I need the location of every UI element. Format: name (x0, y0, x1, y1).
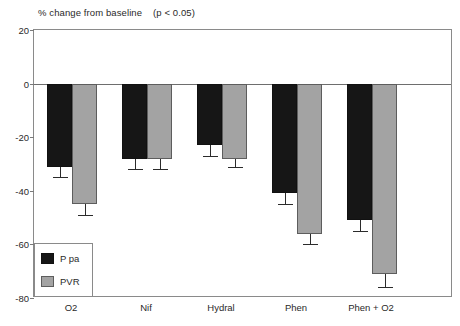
error-bar-cap (128, 169, 143, 170)
y-tick-label: -40 (15, 185, 29, 196)
error-bar-cap (378, 287, 393, 288)
error-bar-cap (153, 169, 168, 170)
chart-container: % change from baseline (p < 0.05) 200-20… (0, 0, 460, 326)
error-bar-cap (303, 244, 318, 245)
error-bar-stem (385, 274, 386, 287)
bar (297, 84, 322, 234)
y-tick-label: 20 (18, 25, 29, 36)
bar (347, 84, 372, 221)
bar (222, 84, 247, 159)
error-bar-stem (235, 159, 236, 167)
error-bar-stem (85, 204, 86, 215)
y-tick-label: -80 (15, 293, 29, 304)
x-axis-label-nif: Nif (140, 302, 152, 313)
error-bar-stem (360, 220, 361, 231)
error-bar-stem (310, 234, 311, 245)
legend-item-label: PVR (60, 276, 80, 287)
x-axis-label-phen-o2: Phen + O2 (348, 302, 394, 313)
bar (122, 84, 147, 159)
x-axis-label-phen: Phen (285, 302, 307, 313)
bar (47, 84, 72, 167)
chart-title: % change from baseline (p < 0.05) (38, 7, 195, 18)
error-bar-stem (210, 145, 211, 156)
error-bar-cap (228, 167, 243, 168)
error-bar-cap (203, 156, 218, 157)
bar (372, 84, 397, 274)
legend-item-label: P pa (60, 253, 79, 264)
y-tick-mark (30, 30, 34, 31)
error-bar-stem (135, 159, 136, 170)
y-tick-mark (30, 298, 34, 299)
error-bar-cap (278, 204, 293, 205)
gray-swatch-icon (41, 276, 54, 287)
chart-legend: P paPVR (34, 243, 93, 297)
bar (272, 84, 297, 194)
error-bar-stem (160, 159, 161, 170)
error-bar-cap (353, 231, 368, 232)
bar (72, 84, 97, 205)
bar (147, 84, 172, 159)
x-axis-label-hydral: Hydral (207, 302, 234, 313)
error-bar-stem (285, 193, 286, 204)
x-axis-label-o2: O2 (65, 302, 78, 313)
y-tick-label: -20 (15, 132, 29, 143)
error-bar-stem (60, 167, 61, 178)
y-tick-mark (30, 191, 34, 192)
error-bar-cap (53, 177, 68, 178)
black-swatch-icon (41, 253, 54, 264)
bar (197, 84, 222, 146)
y-tick-mark (30, 137, 34, 138)
legend-item: P pa (41, 253, 79, 264)
plot-area: 200-20-40-60-80 (33, 29, 452, 297)
y-tick-label: 0 (24, 78, 29, 89)
y-tick-label: -60 (15, 239, 29, 250)
legend-item: PVR (41, 276, 80, 287)
error-bar-cap (78, 215, 93, 216)
